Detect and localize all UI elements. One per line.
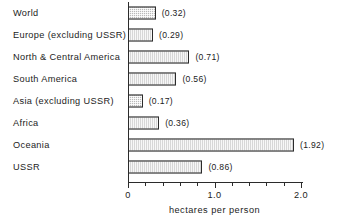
category-label: USSR — [13, 162, 40, 172]
x-tick-minor — [163, 183, 164, 186]
x-tick-minor — [266, 183, 267, 186]
x-axis-line — [128, 182, 303, 183]
chart-row: South America(0.56) — [0, 68, 349, 90]
bar-value-label: (0.17) — [149, 96, 173, 106]
category-label: Europe (excluding USSR) — [13, 30, 126, 40]
x-tick-major — [301, 183, 302, 188]
x-tick-major — [215, 183, 216, 188]
bar-value-label: (0.86) — [208, 162, 232, 172]
y-axis-line — [128, 2, 129, 182]
bar — [128, 161, 202, 174]
bar — [128, 73, 176, 86]
bar — [128, 139, 294, 152]
x-tick-label: 2.0 — [294, 190, 308, 200]
x-tick-minor — [145, 183, 146, 186]
x-tick-minor — [232, 183, 233, 186]
chart-row: Oceania(1.92) — [0, 134, 349, 156]
bar-value-label: (0.71) — [195, 52, 219, 62]
category-label: Asia (excluding USSR) — [13, 96, 114, 106]
category-label: North & Central America — [13, 52, 120, 62]
x-tick-minor — [249, 183, 250, 186]
bar — [128, 117, 159, 130]
chart-row: USSR(0.86) — [0, 156, 349, 178]
x-tick-major — [128, 183, 129, 188]
bar — [128, 51, 189, 64]
chart-row: World(0.32) — [0, 2, 349, 24]
category-label: Oceania — [13, 140, 50, 150]
x-tick-minor — [180, 183, 181, 186]
bar — [128, 29, 153, 42]
bar-value-label: (0.32) — [162, 8, 186, 18]
x-tick-minor — [197, 183, 198, 186]
bar-chart: World(0.32)Europe (excluding USSR)(0.29)… — [0, 0, 349, 220]
chart-row: Africa(0.36) — [0, 112, 349, 134]
bar — [128, 95, 143, 108]
category-label: Africa — [13, 118, 39, 128]
bar-value-label: (0.29) — [159, 30, 183, 40]
x-tick-label: 0 — [125, 190, 131, 200]
bar — [128, 7, 156, 20]
chart-row: Asia (excluding USSR)(0.17) — [0, 90, 349, 112]
category-label: World — [13, 8, 39, 18]
x-tick-minor — [284, 183, 285, 186]
chart-row: North & Central America(0.71) — [0, 46, 349, 68]
bar-value-label: (0.36) — [165, 118, 189, 128]
bar-value-label: (0.56) — [182, 74, 206, 84]
x-axis-title: hectares per person — [169, 205, 260, 215]
category-label: South America — [13, 74, 77, 84]
chart-row: Europe (excluding USSR)(0.29) — [0, 24, 349, 46]
bar-value-label: (1.92) — [300, 140, 324, 150]
x-tick-label: 1.0 — [208, 190, 222, 200]
